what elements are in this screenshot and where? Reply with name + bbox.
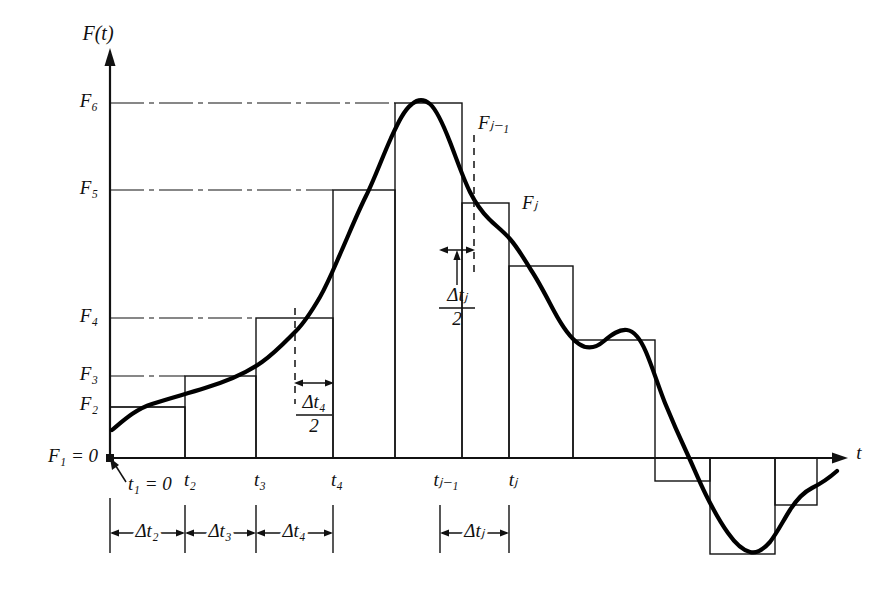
- half-interval-numerator-dtj: Δtⱼ: [446, 284, 468, 305]
- interval-bracket-label-dt4: Δt₄: [281, 520, 305, 541]
- time-tick-label-tj-1: tⱼ₋₁: [434, 469, 459, 490]
- half-interval-numerator-dt4: Δt₄: [301, 391, 325, 412]
- value-leader-lines: [110, 103, 395, 376]
- step-bar-10-negative: [710, 458, 775, 554]
- dtj-half-arrow-left: [439, 247, 448, 254]
- time-tick-label-t1: t₁ = 0: [128, 473, 172, 494]
- value-tick-label-F6: F₆: [79, 90, 98, 111]
- step-bar-Fj: [509, 266, 573, 458]
- y-axis-arrowhead: [105, 48, 116, 66]
- bracket-arrow-dt2-left: [110, 529, 119, 536]
- dtj-half-leader-arrow: [453, 250, 460, 260]
- origin-value-label: F₁ = 0: [47, 445, 99, 466]
- curve-label-Fj-1: Fⱼ₋₁: [477, 112, 509, 133]
- value-tick-label-F4: F₄: [79, 305, 98, 326]
- step-bar-F5: [333, 190, 395, 458]
- figure-container: F(t) t F₆ F₅ F₄ F₃ F₂ F₁ = 0 t₁ = 0 t₂ t…: [0, 0, 889, 594]
- x-axis-arrowhead: [832, 453, 848, 464]
- time-tick-label-tj: tⱼ: [509, 469, 519, 490]
- bracket-arrow-dt4-left: [256, 529, 265, 536]
- interval-bracket-label-dt2: Δt₂: [134, 520, 158, 541]
- step-bar-F6: [395, 103, 462, 458]
- interval-bracket-label-dt3: Δt₃: [207, 520, 231, 541]
- interval-bracket-label-dtj: Δtⱼ: [463, 520, 485, 541]
- bracket-arrow-dtj-left: [440, 529, 449, 536]
- axes-group: [105, 48, 849, 464]
- y-axis-label: F(t): [81, 22, 113, 45]
- step-bar-11-negative: [775, 458, 817, 505]
- value-tick-label-F3: F₃: [79, 363, 98, 384]
- half-interval-denominator-dt4: 2: [309, 415, 319, 436]
- bracket-arrow-dt2-right: [176, 529, 185, 536]
- step-bar-Fj-1: [462, 203, 509, 458]
- x-axis-label: t: [856, 442, 862, 463]
- interval-bracket-group: [110, 498, 509, 553]
- step-bar-8: [573, 340, 655, 458]
- step-bar-F3: [185, 376, 256, 458]
- duhamel-staircase-diagram: F(t) t F₆ F₅ F₄ F₃ F₂ F₁ = 0 t₁ = 0 t₂ t…: [0, 0, 889, 594]
- bracket-arrow-dt3-left: [185, 529, 194, 536]
- midpoint-dashed-lines: [295, 135, 474, 404]
- bracket-arrow-dt3-right: [247, 529, 256, 536]
- value-tick-label-F5: F₅: [79, 177, 98, 198]
- half-interval-arrows: [294, 247, 475, 387]
- curve-label-Fj: Fⱼ: [521, 192, 539, 213]
- time-tick-label-t4: t₄: [331, 469, 343, 490]
- time-tick-label-t3: t₃: [254, 469, 266, 490]
- dt4-half-arrow-left: [294, 380, 303, 387]
- half-interval-denominator-dtj: 2: [452, 308, 462, 329]
- time-tick-label-t2: t₂: [184, 469, 196, 490]
- step-bar-9-negative: [655, 458, 710, 481]
- step-bars-group: [110, 103, 817, 554]
- step-bar-F2: [110, 407, 185, 458]
- bracket-arrow-dtj-right: [500, 529, 509, 536]
- forcing-function-curve: [112, 100, 837, 552]
- origin-callout: [110, 458, 126, 482]
- bracket-arrow-dt4-right: [324, 529, 333, 536]
- value-tick-label-F2: F₂: [79, 393, 99, 414]
